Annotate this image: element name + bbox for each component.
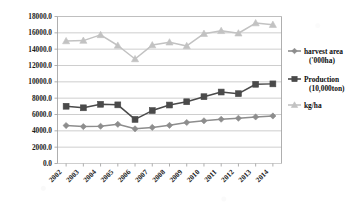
data-point (149, 108, 155, 114)
data-point (184, 119, 190, 125)
y-tick-label: 8000.0 (32, 94, 52, 103)
x-tick-label: 2008 (150, 167, 167, 184)
legend-label: harvest area (304, 47, 343, 56)
data-point (166, 39, 173, 45)
y-tick-label: 4000.0 (32, 126, 52, 135)
data-point (115, 121, 121, 127)
x-axis-tick-labels: 2002200320042005200620072008200920102011… (47, 167, 271, 184)
y-tick-label: 2000.0 (32, 143, 52, 152)
chart-container: 18000.016000.014000.012000.010000.08000.… (0, 0, 361, 214)
x-tick-label: 2011 (202, 167, 219, 184)
data-point (114, 42, 121, 48)
data-point (63, 122, 69, 128)
y-tick-label: 10000.0 (28, 77, 52, 86)
x-tick-label: 2003 (64, 167, 81, 184)
x-tick-label: 2012 (219, 167, 236, 184)
legend-label-unit: ('000ha) (309, 56, 335, 65)
legend-item-2[interactable]: Production(10,000ton) (288, 75, 345, 94)
legend-marker-square (292, 76, 297, 81)
y-tick-label: 6000.0 (32, 110, 52, 119)
legend-marker-diamond (292, 48, 298, 54)
chart-legend: harvest area('000ha)Production(10,000ton… (288, 47, 345, 110)
x-tick-label: 2004 (81, 167, 98, 184)
data-point (98, 101, 104, 107)
y-tick-label: 16000.0 (28, 28, 52, 37)
data-point (80, 105, 86, 111)
y-tick-label: 14000.0 (28, 45, 52, 54)
x-tick-label: 2002 (47, 167, 64, 184)
x-tick-label: 2005 (99, 167, 116, 184)
y-axis-tick-labels: 18000.016000.014000.012000.010000.08000.… (28, 12, 52, 168)
x-tick-label: 2014 (254, 167, 271, 184)
data-point (97, 123, 103, 129)
y-tick-label: 18000.0 (28, 12, 52, 21)
legend-item-3[interactable]: kg/ha (288, 101, 322, 110)
legend-label: Production (304, 75, 339, 84)
x-tick-label: 2009 (167, 167, 184, 184)
x-tick-label: 2006 (116, 167, 133, 184)
data-point (235, 115, 241, 121)
data-point (132, 116, 138, 122)
data-point (218, 89, 224, 95)
data-point (218, 116, 224, 122)
data-point (149, 124, 155, 130)
data-point (201, 118, 207, 124)
legend-label-unit: (10,000ton) (309, 84, 345, 93)
series-1 (63, 113, 276, 132)
data-series-layer (63, 19, 277, 131)
y-tick-label: 12000.0 (28, 61, 52, 70)
line-chart: 18000.016000.014000.012000.010000.08000.… (0, 0, 361, 214)
legend-item-1[interactable]: harvest area('000ha) (288, 47, 343, 66)
data-point (115, 102, 121, 108)
data-point (184, 99, 190, 105)
legend-label: kg/ha (304, 101, 322, 110)
data-point (270, 81, 276, 87)
data-point (235, 91, 241, 97)
y-tick-label: 0.0 (43, 159, 52, 168)
data-point (63, 103, 69, 109)
data-point (166, 122, 172, 128)
data-point (253, 81, 259, 87)
data-point (97, 31, 104, 37)
x-tick-label: 2013 (236, 167, 253, 184)
x-tick-label: 2010 (185, 167, 202, 184)
data-point (201, 94, 207, 100)
data-point (80, 123, 86, 129)
data-point (167, 102, 173, 108)
series-2 (63, 81, 276, 122)
x-tick-label: 2007 (133, 167, 150, 184)
series-3 (63, 19, 277, 61)
data-point (270, 113, 276, 119)
